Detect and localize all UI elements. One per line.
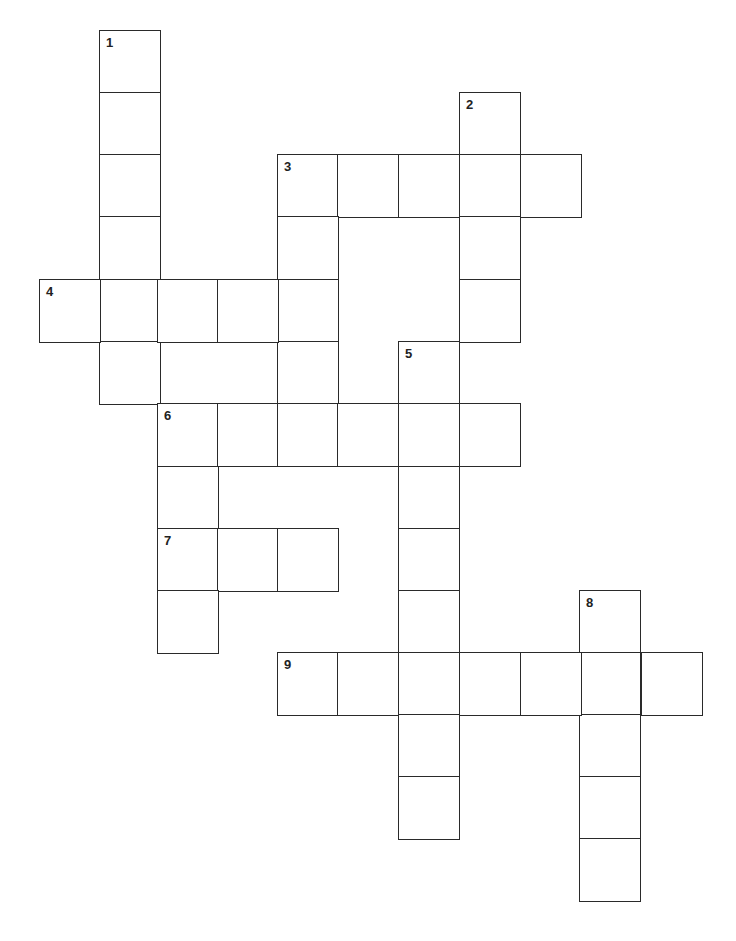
crossword-cell[interactable] (99, 279, 161, 343)
clue-number: 6 (164, 409, 171, 422)
crossword-cell-clue-2[interactable]: 2 (459, 92, 521, 156)
crossword-cell-clue-4[interactable]: 4 (39, 279, 101, 343)
clue-number: 9 (284, 658, 291, 671)
crossword-cell[interactable] (641, 652, 703, 716)
crossword-cell-clue-9[interactable]: 9 (277, 652, 339, 716)
crossword-cell[interactable] (398, 466, 460, 530)
crossword-cell-clue-7[interactable]: 7 (157, 528, 219, 592)
crossword-cell[interactable] (277, 403, 339, 467)
crossword-cell[interactable] (520, 652, 582, 716)
crossword-cell[interactable] (459, 216, 521, 280)
crossword-cell[interactable] (579, 652, 641, 716)
crossword-cell[interactable] (579, 776, 641, 840)
crossword-board: 123456789 (0, 0, 736, 941)
crossword-cell[interactable] (337, 652, 399, 716)
crossword-cell[interactable] (459, 652, 521, 716)
clue-number: 8 (586, 596, 593, 609)
crossword-cell[interactable] (277, 279, 339, 343)
crossword-cell[interactable] (277, 341, 339, 405)
crossword-cell-clue-3[interactable]: 3 (277, 154, 339, 218)
clue-number: 4 (46, 285, 53, 298)
crossword-cell[interactable] (398, 652, 460, 716)
crossword-cell[interactable] (520, 154, 582, 218)
crossword-cell[interactable] (579, 714, 641, 778)
crossword-cell-clue-8[interactable]: 8 (579, 590, 641, 654)
crossword-cell[interactable] (99, 341, 161, 405)
crossword-cell[interactable] (337, 403, 399, 467)
crossword-cell[interactable] (459, 154, 521, 218)
crossword-cell[interactable] (398, 403, 460, 467)
crossword-cell[interactable] (217, 528, 279, 592)
crossword-cell[interactable] (157, 590, 219, 654)
crossword-cell[interactable] (459, 279, 521, 343)
clue-number: 5 (405, 347, 412, 360)
crossword-cell[interactable] (99, 154, 161, 218)
crossword-cell-clue-5[interactable]: 5 (398, 341, 460, 405)
crossword-cell[interactable] (99, 216, 161, 280)
crossword-cell[interactable] (157, 466, 219, 530)
clue-number: 3 (284, 160, 291, 173)
crossword-cell[interactable] (99, 92, 161, 156)
crossword-cell[interactable] (157, 279, 219, 343)
crossword-cell[interactable] (398, 714, 460, 778)
crossword-cell[interactable] (398, 528, 460, 592)
crossword-cell-clue-1[interactable]: 1 (99, 30, 161, 94)
crossword-cell-clue-6[interactable]: 6 (157, 403, 219, 467)
crossword-cell[interactable] (398, 776, 460, 840)
crossword-cell[interactable] (459, 403, 521, 467)
crossword-cell[interactable] (398, 154, 460, 218)
crossword-cell[interactable] (217, 403, 279, 467)
clue-number: 7 (164, 534, 171, 547)
crossword-cell[interactable] (217, 279, 279, 343)
crossword-cell[interactable] (277, 216, 339, 280)
crossword-cell[interactable] (579, 838, 641, 902)
clue-number: 2 (466, 98, 473, 111)
crossword-cell[interactable] (398, 590, 460, 654)
grid-filler-region (157, 341, 281, 405)
crossword-cell[interactable] (337, 154, 399, 218)
crossword-cell[interactable] (277, 528, 339, 592)
clue-number: 1 (106, 36, 113, 49)
